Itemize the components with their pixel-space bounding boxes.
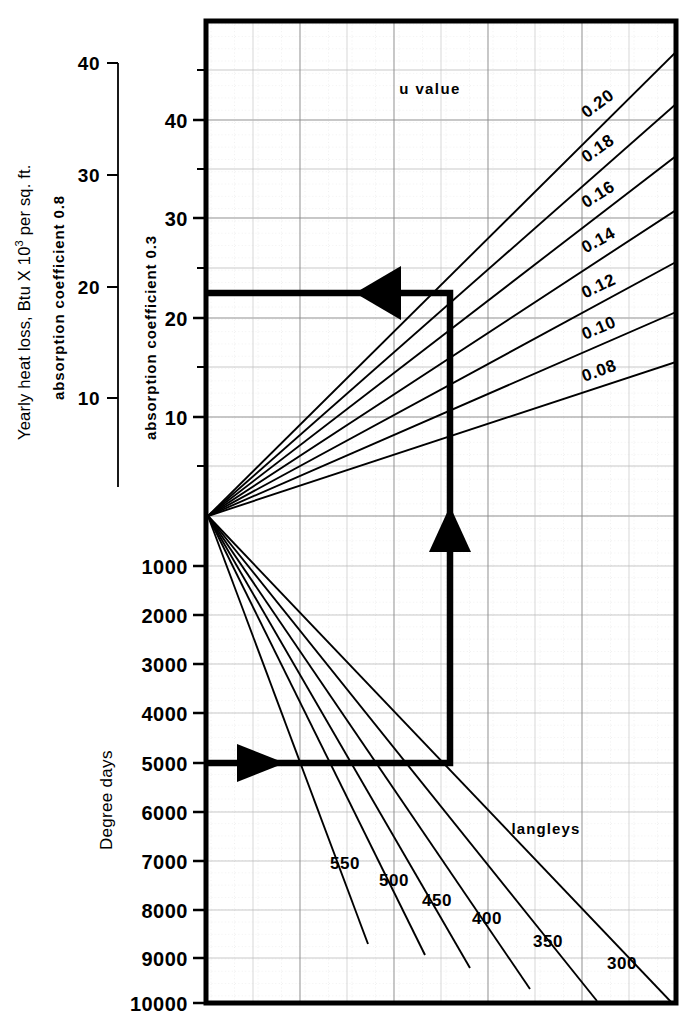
inner-tick-30: 30 [165, 208, 188, 230]
dd-tick-9000: 9000 [142, 948, 189, 970]
langleys-legend-label: langleys [512, 820, 581, 837]
langleys-label-550: 550 [330, 854, 360, 873]
nomograph-canvas: 40 30 20 10 40 30 20 10 1000 2000 3000 4… [0, 0, 690, 1028]
dd-tick-6000: 6000 [142, 802, 189, 824]
outer-axis-subtitle: absorption coefficient 0.8 [50, 195, 67, 400]
outer-axis-title: Yearly heat loss, Btu X 103 per sq. ft. [13, 164, 33, 440]
outer-tick-30: 30 [78, 165, 100, 186]
langleys-label-450: 450 [422, 891, 452, 910]
dd-tick-8000: 8000 [142, 900, 189, 922]
dd-tick-10000: 10000 [130, 993, 188, 1015]
inner-tick-20: 20 [165, 308, 188, 330]
dd-tick-2000: 2000 [142, 605, 189, 627]
dd-tick-1000: 1000 [142, 556, 189, 578]
langleys-label-350: 350 [533, 932, 563, 951]
dd-tick-5000: 5000 [142, 753, 189, 775]
nomograph-figure: 40 30 20 10 40 30 20 10 1000 2000 3000 4… [0, 0, 690, 1028]
dd-tick-4000: 4000 [142, 703, 189, 725]
langleys-label-500: 500 [379, 871, 409, 890]
outer-tick-10: 10 [78, 388, 100, 409]
u-value-legend-label: u value [399, 80, 461, 97]
outer-tick-20: 20 [78, 277, 100, 298]
inner-tick-40: 40 [165, 110, 188, 132]
plot-grid [206, 21, 676, 1003]
langleys-label-400: 400 [472, 909, 502, 928]
dd-tick-7000: 7000 [142, 851, 189, 873]
inner-axis-title: absorption coefficient 0.3 [142, 235, 159, 440]
inner-tick-10: 10 [165, 407, 188, 429]
dd-tick-3000: 3000 [142, 654, 189, 676]
outer-tick-40: 40 [78, 53, 100, 74]
langleys-label-300: 300 [607, 954, 637, 973]
degree-days-axis-title: Degree days [97, 750, 116, 850]
